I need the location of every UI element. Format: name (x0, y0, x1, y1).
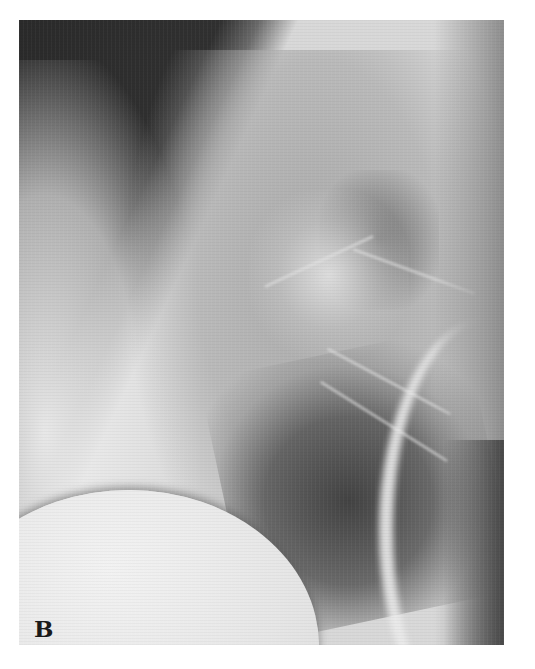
chest-radiograph-image (19, 20, 504, 645)
film-grain (19, 20, 504, 645)
panel-label: B (34, 617, 53, 640)
